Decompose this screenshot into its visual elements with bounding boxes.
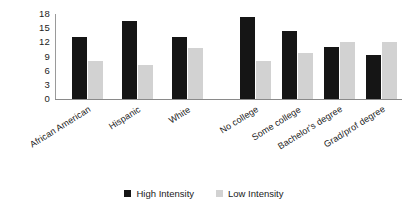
x-axis-category-labels: African AmericanHispanicWhiteNo collegeS… [0, 99, 408, 169]
bar-high-intensity [324, 47, 339, 99]
bar-panel-education [234, 14, 402, 99]
bar-low-intensity [188, 48, 203, 99]
bar-low-intensity [382, 42, 397, 99]
y-tick-6: 6 [28, 66, 50, 76]
bar-group [72, 14, 103, 99]
bar-group [240, 14, 271, 99]
legend-swatch-low-intensity [216, 190, 223, 197]
x-label-6: Grad/prof degree [322, 104, 387, 150]
chart-legend: High Intensity Low Intensity [0, 188, 408, 199]
legend-label-low-intensity: Low Intensity [228, 188, 283, 199]
legend-item-low-intensity: Low Intensity [216, 188, 283, 199]
bar-group [282, 14, 313, 99]
bar-low-intensity [340, 42, 355, 99]
bar-low-intensity [88, 61, 103, 99]
bar-high-intensity [240, 17, 255, 99]
bar-group [122, 14, 153, 99]
bar-panel-race [62, 14, 212, 99]
legend-item-high-intensity: High Intensity [124, 188, 194, 199]
x-axis-line [55, 99, 402, 100]
x-label-5: Bachelor's degree [276, 104, 344, 152]
bar-high-intensity [282, 31, 297, 99]
plot-area [56, 14, 402, 99]
y-tick-15: 15 [28, 23, 50, 33]
x-label-0: African American [28, 104, 92, 149]
bar-low-intensity [138, 65, 153, 99]
bar-high-intensity [72, 37, 87, 99]
y-tick-9: 9 [28, 52, 50, 62]
bar-low-intensity [298, 53, 313, 99]
y-tick-0: 0 [28, 94, 50, 104]
bar-high-intensity [122, 21, 137, 99]
bar-group [172, 14, 203, 99]
x-label-3: No college [218, 104, 260, 136]
bar-group [324, 14, 355, 99]
bar-high-intensity [172, 37, 187, 99]
legend-label-high-intensity: High Intensity [136, 188, 194, 199]
y-tick-3: 3 [28, 80, 50, 90]
bar-chart: 0369121518 African AmericanHispanicWhite… [0, 0, 408, 211]
x-label-4: Some college [250, 104, 303, 142]
y-tick-12: 12 [28, 37, 50, 47]
legend-swatch-high-intensity [124, 190, 131, 197]
y-axis-tick-labels: 0369121518 [26, 14, 50, 99]
y-tick-18: 18 [28, 9, 50, 19]
bar-low-intensity [256, 61, 271, 99]
bar-group [366, 14, 397, 99]
x-label-2: White [167, 104, 192, 125]
bar-high-intensity [366, 55, 381, 99]
x-label-1: Hispanic [107, 104, 142, 131]
